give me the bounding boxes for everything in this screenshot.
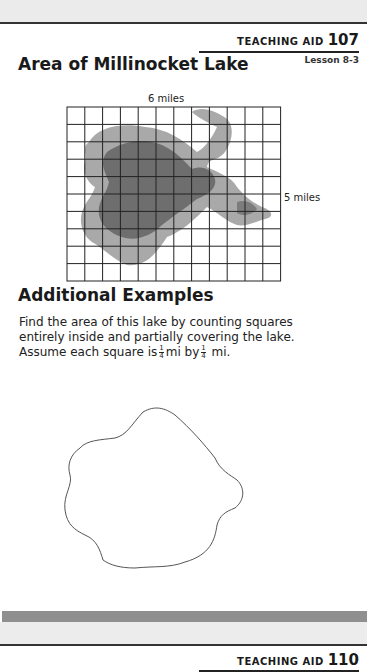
teaching-aid-label: TEACHING AID (237, 36, 324, 47)
prompt-mi-end: mi. (212, 345, 231, 359)
section-title-additional-examples: Additional Examples (18, 285, 214, 305)
exercise-prompt: Find the area of this lake by counting s… (19, 315, 319, 360)
fraction-one-quarter: 14 (159, 345, 163, 360)
prompt-mi-by: mi by (166, 345, 200, 359)
top-page-band (0, 0, 367, 24)
prompt-is: is (148, 345, 158, 359)
fraction-denominator: 4 (159, 353, 163, 360)
bottom-page-band (0, 622, 367, 646)
section-title-millinocket: Area of Millinocket Lake (18, 54, 249, 74)
teaching-aid-number: 110 (328, 651, 359, 669)
fraction-one-quarter: 14 (201, 345, 205, 360)
teaching-aid-label: TEACHING AID (237, 656, 324, 667)
teaching-aid-number: 107 (328, 31, 359, 49)
lake-outline-drawing (55, 395, 255, 575)
teaching-aid-title: TEACHING AID 107 (199, 32, 359, 53)
fraction-denominator: 4 (201, 353, 205, 360)
lake-grid-map (60, 100, 285, 285)
height-label: 5 miles (284, 192, 320, 203)
bottom-gray-bar (2, 611, 367, 622)
teaching-aid-footer: TEACHING AID 110 (199, 652, 359, 672)
